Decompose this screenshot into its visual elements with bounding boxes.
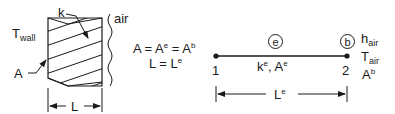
t-air-label: Tair — [361, 50, 379, 66]
h-air-label: hair — [361, 32, 378, 48]
air-boundary — [108, 14, 112, 86]
boundary-b-circle: b — [340, 34, 355, 49]
l-label: L — [71, 100, 78, 113]
air-label: air — [114, 12, 128, 25]
node-2-label: 2 — [342, 64, 349, 77]
k-label: k — [58, 6, 65, 19]
equation-length: L = Le — [149, 57, 182, 70]
element-e-circle: e — [268, 34, 283, 49]
length-le-label: Le — [274, 88, 286, 101]
node-2-dot — [344, 53, 349, 58]
t-wall-label: Twall — [12, 27, 35, 43]
node-1-label: 1 — [212, 64, 219, 77]
element-properties: ke, Ae — [257, 60, 288, 73]
equation-area: A = Ae = Ab — [133, 42, 195, 55]
node-1-dot — [213, 53, 218, 58]
wall-section — [40, 10, 110, 104]
a-b-label: Ab — [362, 68, 375, 81]
a-label: A — [14, 67, 23, 80]
